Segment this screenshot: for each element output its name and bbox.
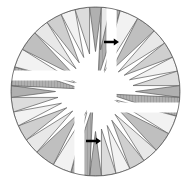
- gap-hub: [83, 79, 109, 105]
- figure-root: [0, 0, 192, 184]
- pinwheel-diagram: [0, 0, 192, 184]
